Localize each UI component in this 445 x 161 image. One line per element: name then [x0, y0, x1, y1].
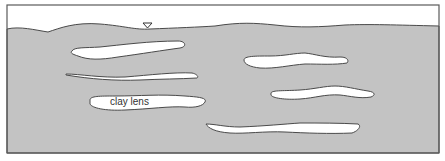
clay-lens-label: clay lens [110, 96, 149, 107]
water-table-marker-icon [143, 23, 152, 28]
saturated-zone [7, 23, 439, 153]
cross-section-diagram: clay lens [0, 0, 445, 161]
